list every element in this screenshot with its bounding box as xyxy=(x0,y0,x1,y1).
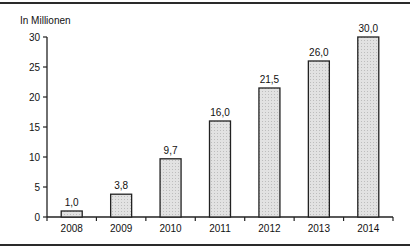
x-tick-label: 2011 xyxy=(209,223,231,234)
bar-2009 xyxy=(111,194,132,217)
bar-value-label: 16,0 xyxy=(210,107,230,118)
y-tick-label: 0 xyxy=(34,212,40,223)
x-tick-label: 2010 xyxy=(159,223,182,234)
x-tick-label: 2012 xyxy=(258,223,281,234)
bar-chart: In Millionen 051015202530 20082009201020… xyxy=(0,0,410,249)
y-tick-label: 25 xyxy=(29,62,41,73)
y-tick-label: 15 xyxy=(29,122,41,133)
unit-label: In Millionen xyxy=(20,15,71,26)
y-tick-label: 10 xyxy=(29,152,41,163)
y-axis: 051015202530 xyxy=(29,32,47,223)
bar-2008 xyxy=(61,211,82,217)
bar-value-label: 9,7 xyxy=(164,145,178,156)
x-tick-label: 2008 xyxy=(61,223,84,234)
y-tick-label: 5 xyxy=(34,182,40,193)
x-tick-label: 2009 xyxy=(110,223,133,234)
bar-value-label: 1,0 xyxy=(65,197,79,208)
bar-2010 xyxy=(160,159,181,217)
bar-value-label: 21,5 xyxy=(260,74,280,85)
y-tick-label: 30 xyxy=(29,32,41,43)
bar-value-label: 26,0 xyxy=(309,47,329,58)
y-tick-label: 20 xyxy=(29,92,41,103)
bar-2012 xyxy=(259,88,280,217)
bar-2014 xyxy=(358,37,379,217)
bar-2011 xyxy=(210,121,231,217)
bars: 1,03,89,716,021,526,030,0 xyxy=(61,23,379,217)
bar-2013 xyxy=(308,61,329,217)
bar-value-label: 3,8 xyxy=(114,180,128,191)
x-axis: 2008200920102011201220132014 xyxy=(47,217,393,234)
x-tick-label: 2013 xyxy=(308,223,331,234)
x-tick-label: 2014 xyxy=(357,223,380,234)
bar-value-label: 30,0 xyxy=(359,23,379,34)
